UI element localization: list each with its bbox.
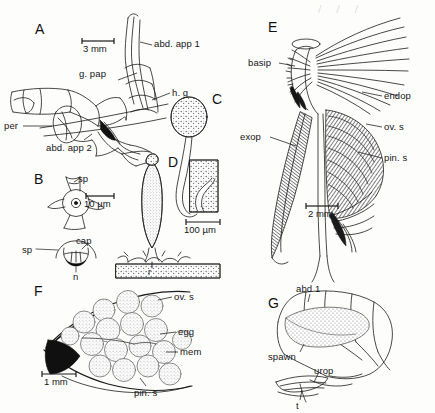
scale-label-a: 3 mm: [83, 44, 107, 54]
label-g-pap: g. pap: [79, 69, 106, 79]
label-spawn: spawn: [268, 352, 296, 362]
label-urop: urop: [314, 366, 333, 376]
scale-label-b: 10 µm: [84, 199, 111, 209]
panel-letter-c: C: [212, 92, 222, 106]
label-n: n: [73, 272, 78, 282]
label-egg: egg: [178, 327, 194, 337]
label-r: r: [148, 268, 151, 277]
panel-letter-b: B: [34, 172, 43, 186]
label-pin-s-e: pin. s: [384, 153, 407, 163]
label-cap: cap: [76, 236, 92, 246]
panel-b-drawing: [36, 177, 104, 272]
label-endop: endop: [384, 91, 411, 101]
figure-plate: A B C D E F G 3 mm 10 µm 100 µm 2 mm 1 m…: [0, 0, 435, 413]
label-per: per: [4, 121, 18, 131]
panel-letter-e: E: [268, 20, 277, 34]
scale-label-c: 100 µm: [184, 225, 216, 235]
label-h-g: h. g: [172, 88, 188, 98]
label-mem: mem: [180, 347, 201, 357]
plate-linework: [0, 0, 435, 413]
label-abd-1: abd 1: [296, 284, 320, 294]
label-ov-s-e: ov. s: [384, 122, 404, 132]
scale-label-f: 1 mm: [44, 377, 68, 387]
label-basip: basip: [248, 58, 271, 68]
label-ov-s-f: ov. s: [174, 292, 194, 302]
panel-letter-g: G: [268, 296, 279, 310]
panel-e-drawing: [271, 18, 409, 282]
scale-label-e: 2 mm: [308, 209, 332, 219]
panel-letter-a: A: [35, 22, 44, 36]
label-pin-s-f: pin. s: [134, 388, 157, 398]
panel-g-drawing: [276, 291, 392, 402]
label-t: t: [296, 401, 299, 411]
panel-letter-f: F: [34, 284, 43, 298]
label-exop: exop: [240, 132, 261, 142]
label-sp-lower: sp: [22, 245, 32, 255]
label-abd-app-1: abd. app 1: [154, 39, 200, 49]
panel-letter-d: D: [168, 155, 178, 169]
label-abd-app-2: abd. app 2: [46, 143, 92, 153]
label-sp-top: sp: [78, 174, 88, 184]
scan-artifact: / / /: [318, 2, 364, 17]
